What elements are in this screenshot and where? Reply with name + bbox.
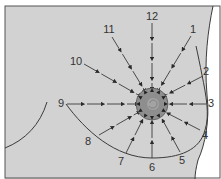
clock-label-7: 7 (118, 155, 124, 167)
clock-label-12: 12 (146, 10, 158, 22)
clock-label-5: 5 (179, 154, 185, 166)
breast-exam-diagram: 123456789101112 (0, 0, 221, 179)
clock-label-8: 8 (85, 135, 91, 147)
clock-label-4: 4 (202, 129, 208, 141)
diagram-canvas: 123456789101112 (0, 0, 221, 179)
clock-label-9: 9 (58, 97, 64, 109)
clock-label-6: 6 (149, 161, 155, 173)
clock-label-10: 10 (70, 55, 82, 67)
clock-label-1: 1 (190, 23, 196, 35)
clock-label-3: 3 (208, 97, 214, 109)
clock-label-2: 2 (203, 65, 209, 77)
clock-label-11: 11 (103, 23, 114, 35)
